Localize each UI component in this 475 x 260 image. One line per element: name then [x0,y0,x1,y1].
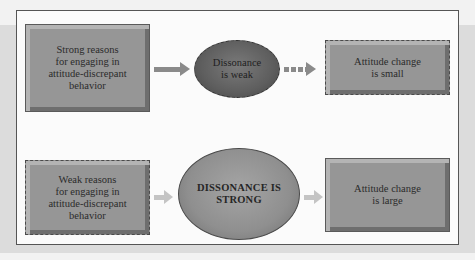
dissonance-line-2: STRONG [197,194,281,206]
arrow-shaft [304,195,314,200]
arrow-shaft [284,67,306,72]
cause-line-2: for engaging in [48,186,126,198]
cause-line-4: behavior [48,210,126,222]
outcome-line-2: is small [354,68,421,80]
dissonance-line-2: is weak [213,69,261,81]
arrow-head [180,62,190,76]
arrow-head [314,190,323,204]
dissonance-weak-ellipse: Dissonance is weak [194,40,280,98]
cause-line-1: Weak reasons [48,174,126,186]
arrow-head [164,190,173,204]
cause-line-3: attitude-discrepant [48,68,126,80]
dotted-arrow-right-icon [284,62,316,76]
arrow-head [306,62,316,76]
arrow-shaft [154,67,180,72]
cause-line-4: behavior [48,80,126,92]
arrow-right-icon [154,62,190,76]
outcome-line-1: Attitude change [354,56,421,68]
cause-box-weak-reasons: Weak reasons for engaging in attitude-di… [25,160,150,235]
dissonance-line-1: Dissonance [213,57,261,69]
arrow-right-icon [304,190,323,204]
cause-line-1: Strong reasons [48,44,126,56]
arrow-shaft [154,195,164,200]
cause-line-2: for engaging in [48,56,126,68]
arrow-right-icon [154,190,173,204]
outcome-line-1: Attitude change [354,183,421,195]
dissonance-line-1: DISSONANCE IS [197,182,281,194]
outcome-line-2: is large [354,195,421,207]
outcome-box-small-change: Attitude change is small [325,40,450,95]
cause-line-3: attitude-discrepant [48,198,126,210]
cause-box-strong-reasons: Strong reasons for engaging in attitude-… [25,24,150,112]
dissonance-strong-ellipse: DISSONANCE IS STRONG [178,148,300,240]
outcome-box-large-change: Attitude change is large [325,158,450,232]
